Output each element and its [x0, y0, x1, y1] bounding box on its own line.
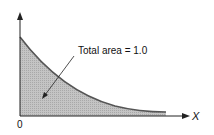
total-area-annotation: Total area = 1.0	[78, 46, 147, 56]
x-axis-arrow-icon	[182, 113, 190, 119]
x-axis-label: X	[192, 111, 199, 122]
origin-label: 0	[17, 120, 23, 130]
y-axis-arrow-icon	[17, 12, 23, 20]
chart-figure	[0, 0, 214, 135]
